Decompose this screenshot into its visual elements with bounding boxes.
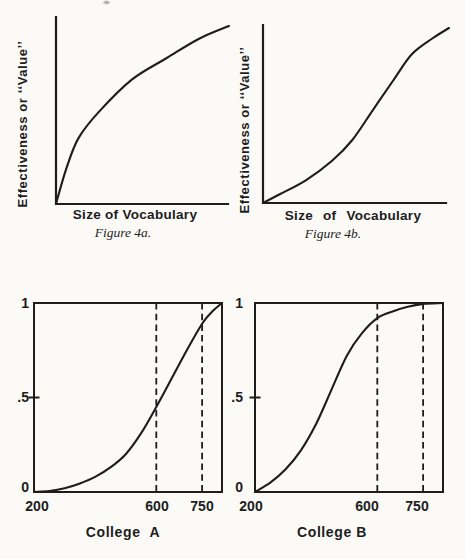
figures-canvas: [0, 0, 465, 559]
college-b-curve: [255, 303, 443, 492]
figure-4a-curve: [56, 26, 229, 204]
college-a-curve: [34, 303, 222, 492]
figure-4b-curve: [263, 28, 449, 203]
scanned-figure-page: Effectiveness or ‘‘Value’’ Size of Vocab…: [0, 0, 465, 559]
college-a-plot-box: [34, 303, 222, 492]
figure-4b-axes: [263, 25, 446, 203]
figure-4a-axes: [56, 17, 228, 204]
college-b-plot-box: [255, 303, 443, 492]
